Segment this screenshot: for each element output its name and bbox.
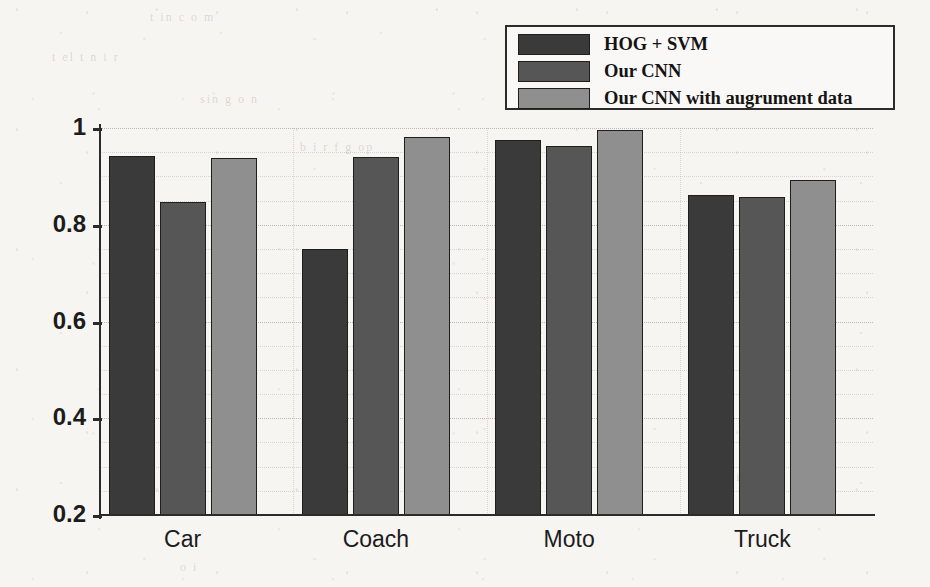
x-axis-label-coach: Coach: [343, 526, 409, 553]
legend-item-label: Our CNN: [604, 61, 681, 82]
scan-ghost-text: t el t n i r: [52, 50, 120, 65]
bar-chart-plot-area: [100, 128, 873, 515]
bar-car-1: [109, 156, 155, 515]
legend-item-label: HOG + SVM: [604, 34, 708, 55]
y-axis-tick: [93, 322, 102, 325]
y-axis-tick: [93, 515, 102, 518]
x-axis-label-car: Car: [164, 526, 201, 553]
bar-car-2: [160, 202, 206, 515]
chart-legend: HOG + SVM Our CNN Our CNN with augrument…: [505, 25, 895, 110]
bar-truck-1: [688, 195, 734, 515]
y-axis-tick: [93, 418, 102, 421]
y-axis-label: 0.6: [10, 307, 86, 335]
bar-moto-2: [546, 146, 592, 515]
x-axis: [99, 514, 875, 516]
y-axis-label: 0.8: [10, 210, 86, 238]
bar-moto-3: [597, 130, 643, 515]
x-axis-label-truck: Truck: [734, 526, 791, 553]
legend-item-label: Our CNN with augrument data: [604, 88, 852, 109]
y-axis-label: 1: [10, 113, 86, 141]
chart-bars-layer: [100, 128, 873, 515]
legend-swatch-icon: [518, 61, 590, 82]
scan-ghost-text: sin g o n: [200, 92, 259, 107]
bar-moto-1: [495, 140, 541, 515]
legend-swatch-icon: [518, 34, 590, 55]
y-axis-tick: [93, 225, 102, 228]
bar-car-3: [211, 158, 257, 515]
y-axis-label: 0.2: [10, 500, 86, 528]
legend-swatch-icon: [518, 88, 590, 109]
bar-coach-2: [353, 157, 399, 515]
scan-ghost-text: t in c o m: [150, 10, 215, 25]
bar-coach-1: [302, 249, 348, 515]
x-axis-label-moto: Moto: [544, 526, 595, 553]
bar-truck-3: [790, 180, 836, 515]
legend-item: Our CNN: [518, 58, 893, 84]
scan-ghost-text: o i: [180, 560, 198, 575]
y-axis-tick: [93, 128, 102, 131]
y-axis-label: 0.4: [10, 403, 86, 431]
legend-item: HOG + SVM: [518, 31, 893, 57]
bar-coach-3: [404, 137, 450, 515]
bar-truck-2: [739, 197, 785, 515]
legend-item: Our CNN with augrument data: [518, 85, 893, 111]
